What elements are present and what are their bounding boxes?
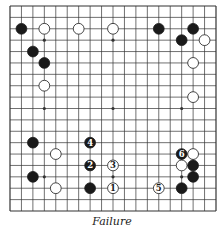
stone-disc [188, 92, 199, 103]
star-point [180, 175, 183, 178]
white-stone [188, 58, 199, 69]
black-stone: 2 [85, 160, 96, 171]
white-stone [108, 23, 119, 34]
stone-disc [85, 183, 96, 194]
white-stone: 1 [108, 183, 119, 194]
black-stone [188, 23, 199, 34]
star-point [111, 175, 114, 178]
stone-disc [27, 171, 38, 182]
stone-disc [188, 171, 199, 182]
go-board: 462315 [0, 0, 224, 214]
stone-disc [153, 23, 164, 34]
white-stone [199, 35, 210, 46]
stone-disc [176, 160, 187, 171]
stone-disc [50, 183, 61, 194]
white-stone [176, 160, 187, 171]
black-stone [27, 137, 38, 148]
stone-disc [199, 35, 210, 46]
move-number: 2 [87, 160, 93, 170]
black-stone [188, 160, 199, 171]
white-stone [39, 23, 50, 34]
stone-disc [188, 23, 199, 34]
move-number: 4 [87, 138, 93, 148]
stone-disc [188, 149, 199, 160]
stone-disc [176, 183, 187, 194]
stone-disc [176, 35, 187, 46]
black-stone [176, 35, 187, 46]
white-stone: 3 [108, 160, 119, 171]
move-number: 6 [179, 149, 185, 159]
black-stone [176, 183, 187, 194]
star-point [180, 107, 183, 110]
white-stone [50, 149, 61, 160]
white-stone: 5 [153, 183, 164, 194]
white-stone [39, 80, 50, 91]
stone-disc [73, 23, 84, 34]
white-stone [50, 183, 61, 194]
white-stone [73, 23, 84, 34]
stone-disc [39, 23, 50, 34]
move-number: 5 [156, 183, 162, 193]
stone-disc [27, 46, 38, 57]
move-number: 3 [110, 160, 116, 170]
black-stone: 6 [176, 149, 187, 160]
star-point [43, 39, 46, 42]
stone-disc [27, 137, 38, 148]
star-point [111, 39, 114, 42]
black-stone: 4 [85, 137, 96, 148]
black-stone [27, 46, 38, 57]
black-stone [16, 23, 27, 34]
star-point [111, 107, 114, 110]
black-stone [85, 183, 96, 194]
stone-disc [108, 23, 119, 34]
black-stone [188, 171, 199, 182]
stone-disc [50, 149, 61, 160]
black-stone [39, 58, 50, 69]
stone-disc [39, 58, 50, 69]
star-point [43, 175, 46, 178]
stone-disc [188, 58, 199, 69]
white-stone [188, 149, 199, 160]
stone-disc [39, 80, 50, 91]
move-number: 1 [110, 183, 116, 193]
stone-disc [16, 23, 27, 34]
stone-disc [188, 160, 199, 171]
black-stone [27, 171, 38, 182]
star-point [43, 107, 46, 110]
white-stone [188, 92, 199, 103]
black-stone [153, 23, 164, 34]
diagram-caption: Failure [0, 215, 224, 228]
